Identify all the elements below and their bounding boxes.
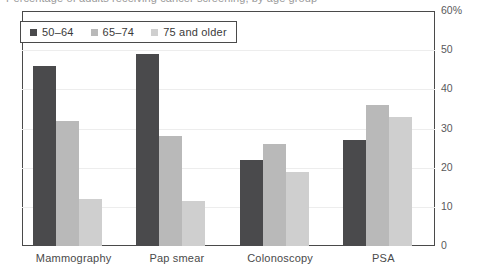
legend-label: 65–74 xyxy=(103,26,135,38)
bar xyxy=(366,105,389,246)
legend-swatch-icon xyxy=(30,29,37,36)
bar xyxy=(286,172,309,246)
y-axis-tick-label: 60% xyxy=(441,5,462,16)
bar xyxy=(136,54,159,246)
bar xyxy=(33,66,56,246)
legend-swatch-icon xyxy=(151,29,158,36)
legend-label: 75 and older xyxy=(163,26,227,38)
bar xyxy=(263,144,286,246)
legend-item: 75 and older xyxy=(151,26,227,38)
bars-layer xyxy=(22,11,435,246)
bar xyxy=(389,117,412,246)
bar xyxy=(182,201,205,246)
x-axis-tick-label: Pap smear xyxy=(125,252,228,264)
y-axis-tick-label: 10 xyxy=(441,201,453,212)
bar xyxy=(343,140,366,246)
y-axis-tick-label: 30 xyxy=(441,123,453,134)
legend-item: 50–64 xyxy=(30,26,74,38)
y-axis-tick-label: 0 xyxy=(441,240,447,251)
legend-label: 50–64 xyxy=(42,26,74,38)
y-axis-tick-label: 40 xyxy=(441,83,453,94)
bar xyxy=(56,121,79,246)
y-axis-tick-label: 50 xyxy=(441,44,453,55)
x-axis-tick-label: Colonoscopy xyxy=(229,252,332,264)
legend-item: 65–74 xyxy=(91,26,135,38)
y-axis-tick-label: 20 xyxy=(441,162,453,173)
bar xyxy=(159,136,182,246)
legend-swatch-icon xyxy=(91,29,98,36)
bar xyxy=(240,160,263,246)
bar xyxy=(79,199,102,246)
x-axis-tick-label: Mammography xyxy=(22,252,125,264)
chart-legend: 50–6465–7475 and older xyxy=(20,21,237,43)
x-axis-tick-label: PSA xyxy=(332,252,435,264)
bar-chart-figure: 60%50403020100 MammographyPap smearColon… xyxy=(0,0,496,274)
